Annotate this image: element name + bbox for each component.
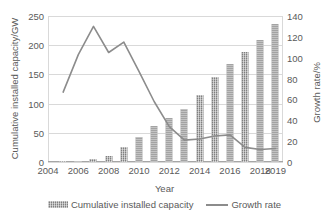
- x-axis-tick-label: 2008: [98, 165, 119, 176]
- chart-legend: Cumulative installed capacity Growth rat…: [0, 199, 329, 210]
- legend-label-cumulative-installed-capacity: Cumulative installed capacity: [71, 199, 194, 210]
- line-swatch-icon: [206, 204, 228, 206]
- x-axis-title: Year: [0, 183, 329, 194]
- line-series-growth-rate: [48, 16, 283, 162]
- legend-label-growth-rate: Growth rate: [231, 199, 281, 210]
- x-axis-tick-label: 2010: [128, 165, 149, 176]
- legend-item-growth-rate: Growth rate: [206, 199, 281, 210]
- x-axis-tick-label: 2006: [68, 165, 89, 176]
- y-axis-right-tick-label: 0: [287, 157, 292, 168]
- y-axis-right-title: Growth rate/%: [311, 18, 322, 168]
- y-axis-left-tick-label: 200: [28, 40, 44, 51]
- y-axis-right-tick-label: 120: [287, 31, 303, 42]
- y-axis-right-tick-label: 40: [287, 115, 298, 126]
- y-axis-right-tick-label: 60: [287, 94, 298, 105]
- y-axis-left-title: Cumulative installed capacity/GW: [9, 14, 20, 164]
- legend-item-cumulative-installed-capacity: Cumulative installed capacity: [48, 199, 194, 210]
- y-axis-right-tick-label: 100: [287, 52, 303, 63]
- x-axis-tick-label: 2016: [219, 165, 240, 176]
- x-axis-tick-label: 2012: [159, 165, 180, 176]
- bar-swatch-icon: [48, 201, 68, 208]
- y-axis-left-tick-label: 100: [28, 98, 44, 109]
- y-axis-right-tick-label: 140: [287, 11, 303, 22]
- x-axis-tick-label: 2014: [189, 165, 210, 176]
- y-axis-right-tick-label: 80: [287, 73, 298, 84]
- y-axis-left-tick-label: 50: [33, 127, 44, 138]
- y-axis-left-tick-label: 250: [28, 11, 44, 22]
- y-axis-right-tick-label: 20: [287, 136, 298, 147]
- growth-rate-polyline: [63, 26, 275, 149]
- plot-area: 050100150200250 020406080100120140 20042…: [48, 16, 283, 162]
- x-axis-tick-label: 2019: [265, 165, 286, 176]
- x-axis-tick-label: 2004: [37, 165, 58, 176]
- gridline: [48, 162, 283, 163]
- chart-container: Cumulative installed capacity/GW Growth …: [0, 0, 329, 223]
- y-axis-left-tick-label: 150: [28, 69, 44, 80]
